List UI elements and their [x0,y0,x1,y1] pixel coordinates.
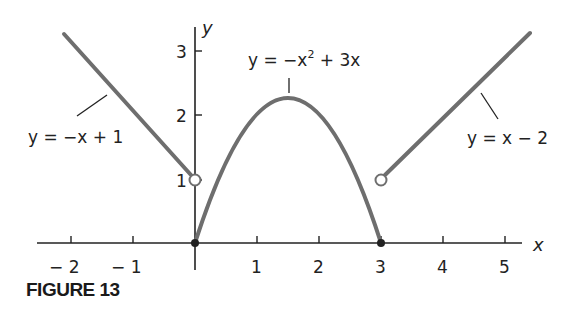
x-axis-label: x [532,234,544,255]
endpoints [190,175,387,248]
closed-point-three [377,239,385,247]
label-middle-piece: y = −x2 + 3x [248,48,360,70]
piecewise-function-graph: x y − 2 − 1 1 2 3 4 5 1 2 3 [0,0,577,317]
label-middle-prefix: y = −x [248,50,307,70]
y-tick-label: 3 [176,42,187,62]
open-point-right [376,175,387,186]
y-axis-label: y [201,17,213,38]
label-left-piece: y = −x + 1 [28,127,123,147]
label-middle-exp: 2 [307,48,314,61]
x-tick-label: − 1 [111,257,141,277]
closed-point-origin [191,239,199,247]
parabola-segment [195,98,381,243]
y-tick-label: 2 [176,106,187,126]
label-middle-suffix: + 3x [314,50,360,70]
figure-caption: FIGURE 13 [26,279,120,301]
open-point-left [190,175,201,186]
right-line-segment [385,33,530,175]
x-tick-label: − 2 [49,257,79,277]
left-line-segment [64,34,191,175]
label-right-piece: y = x − 2 [467,128,548,148]
x-tick-label: 4 [437,257,448,277]
x-tick-label: 3 [375,257,386,277]
x-tick-label: 1 [251,257,262,277]
x-ticks [71,236,505,243]
x-tick-label: 5 [499,257,510,277]
y-tick-label: 1 [176,171,187,191]
x-tick-label: 2 [313,257,324,277]
y-ticks [195,51,202,180]
